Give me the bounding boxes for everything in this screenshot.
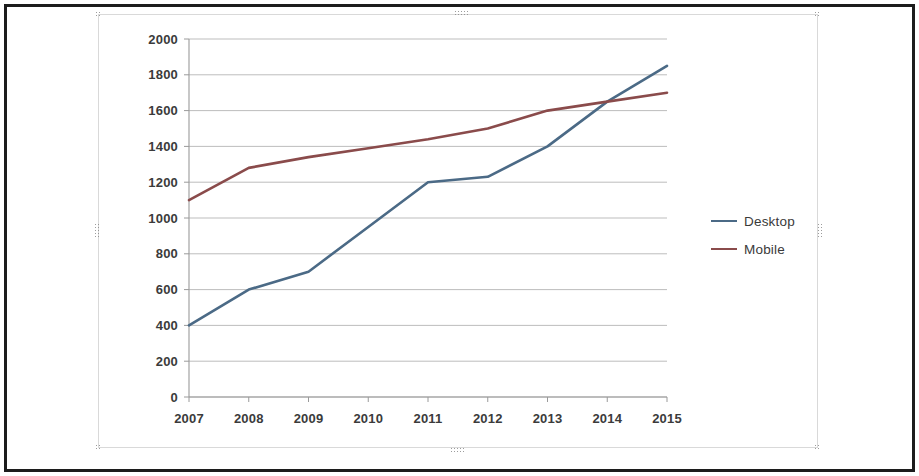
chart-object[interactable]: 0200400600800100012001400160018002000 20… bbox=[98, 14, 818, 448]
x-tick-label: 2015 bbox=[652, 411, 682, 426]
legend-item-mobile[interactable]: Mobile bbox=[711, 235, 815, 263]
series-line-desktop[interactable] bbox=[189, 66, 667, 326]
gridlines bbox=[189, 39, 667, 397]
legend-label-desktop: Desktop bbox=[744, 214, 795, 229]
y-tick-label: 1200 bbox=[148, 175, 178, 190]
y-tick-label: 1400 bbox=[148, 139, 178, 154]
screenshot-root: 0200400600800100012001400160018002000 20… bbox=[0, 0, 919, 476]
x-tick-label: 2007 bbox=[174, 411, 204, 426]
y-tick-label: 1000 bbox=[148, 211, 178, 226]
x-tick-label: 2008 bbox=[234, 411, 264, 426]
legend-label-mobile: Mobile bbox=[744, 242, 785, 257]
y-tick-label: 1800 bbox=[148, 67, 178, 82]
series-lines bbox=[189, 66, 667, 326]
legend-item-desktop[interactable]: Desktop bbox=[711, 207, 815, 235]
x-axis bbox=[189, 397, 667, 402]
x-tick-label: 2010 bbox=[353, 411, 383, 426]
y-tick-label: 1600 bbox=[148, 103, 178, 118]
y-tick-label: 800 bbox=[156, 246, 178, 261]
y-tick-label: 200 bbox=[156, 354, 178, 369]
legend-swatch-mobile bbox=[711, 248, 737, 250]
y-tick-label: 600 bbox=[156, 282, 178, 297]
y-tick-labels: 0200400600800100012001400160018002000 bbox=[148, 32, 178, 405]
y-tick-label: 2000 bbox=[148, 32, 178, 47]
y-tick-label: 0 bbox=[171, 390, 178, 405]
x-tick-label: 2014 bbox=[592, 411, 622, 426]
x-tick-label: 2009 bbox=[294, 411, 324, 426]
x-tick-label: 2012 bbox=[473, 411, 503, 426]
y-tick-label: 400 bbox=[156, 318, 178, 333]
y-axis bbox=[184, 39, 189, 397]
x-tick-label: 2011 bbox=[413, 411, 442, 426]
x-tick-label: 2013 bbox=[533, 411, 563, 426]
chart-legend: Desktop Mobile bbox=[711, 207, 815, 263]
x-tick-labels: 200720082009201020112012201320142015 bbox=[174, 411, 682, 426]
legend-swatch-desktop bbox=[711, 220, 737, 222]
